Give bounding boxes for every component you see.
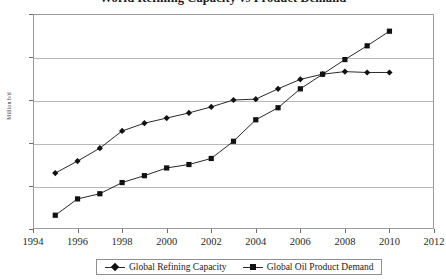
data-point-diamond [253,96,259,102]
data-point-diamond [141,120,147,126]
data-point-diamond [186,110,192,116]
data-point-square [231,139,236,144]
data-point-square [298,86,303,91]
x-axis-tick-label: 2006 [280,236,320,247]
data-point-square [320,72,325,77]
y-axis-tick-mark [29,143,33,144]
data-point-square [53,213,58,218]
data-point-square [209,156,214,161]
x-axis-tick-label: 2010 [369,236,409,247]
x-axis-tick-mark [389,229,390,233]
legend-item-oil-product-demand[interactable]: Global Oil Product Demand [243,262,374,272]
diamond-marker-icon [105,263,125,272]
data-point-square [253,117,258,122]
x-axis-tick-label: 2008 [325,236,365,247]
legend-label: Global Oil Product Demand [267,262,374,272]
x-axis-tick-mark [211,229,212,233]
data-point-diamond [164,115,170,121]
data-point-square [97,191,102,196]
x-axis-tick-label: 2012 [414,236,446,247]
x-axis-tick-label: 2004 [236,236,276,247]
x-axis-tick-mark [122,229,123,233]
chart-legend: Global Refining Capacity Global Oil Prod… [96,259,382,275]
data-point-square [387,29,392,34]
data-point-diamond [74,158,80,164]
data-point-square [365,43,370,48]
data-point-diamond [275,86,281,92]
data-point-square [186,162,191,167]
data-point-diamond [297,76,303,82]
x-axis-tick-mark [78,229,79,233]
x-axis-tick-mark [256,229,257,233]
x-axis-tick-mark [434,229,435,233]
plot-data-layer [33,14,434,229]
y-axis-title: Million b/d [6,78,12,134]
series-refining-capacity [52,69,392,177]
data-point-square [164,165,169,170]
y-axis-tick-mark [29,100,33,101]
y-axis-tick-mark [29,14,33,15]
data-point-diamond [208,104,214,110]
data-point-diamond [364,69,370,75]
data-point-diamond [52,170,58,176]
x-axis-tick-label: 2002 [191,236,231,247]
data-point-square [275,105,280,110]
x-axis-tick-label: 1994 [13,236,53,247]
data-point-square [120,180,125,185]
data-point-square [142,173,147,178]
data-point-diamond [386,69,392,75]
square-marker-icon [243,263,263,272]
y-axis-tick-mark [29,57,33,58]
series-oil-product-demand [53,29,392,218]
x-axis-tick-mark [300,229,301,233]
x-axis-tick-mark [167,229,168,233]
series-line [55,31,389,215]
data-point-square [342,57,347,62]
x-axis-tick-label: 1996 [58,236,98,247]
x-axis-tick-mark [345,229,346,233]
chart-container: World Refining Capacity vs Product Deman… [0,0,446,280]
y-axis-tick-mark [29,186,33,187]
legend-item-refining-capacity[interactable]: Global Refining Capacity [105,262,227,272]
x-axis-tick-label: 1998 [102,236,142,247]
data-point-diamond [342,69,348,75]
series-line [55,72,389,173]
x-axis-tick-mark [33,229,34,233]
chart-title: World Refining Capacity vs Product Deman… [0,0,446,6]
x-axis-tick-label: 2000 [147,236,187,247]
legend-label: Global Refining Capacity [129,262,227,272]
data-point-square [75,196,80,201]
data-point-diamond [230,97,236,103]
